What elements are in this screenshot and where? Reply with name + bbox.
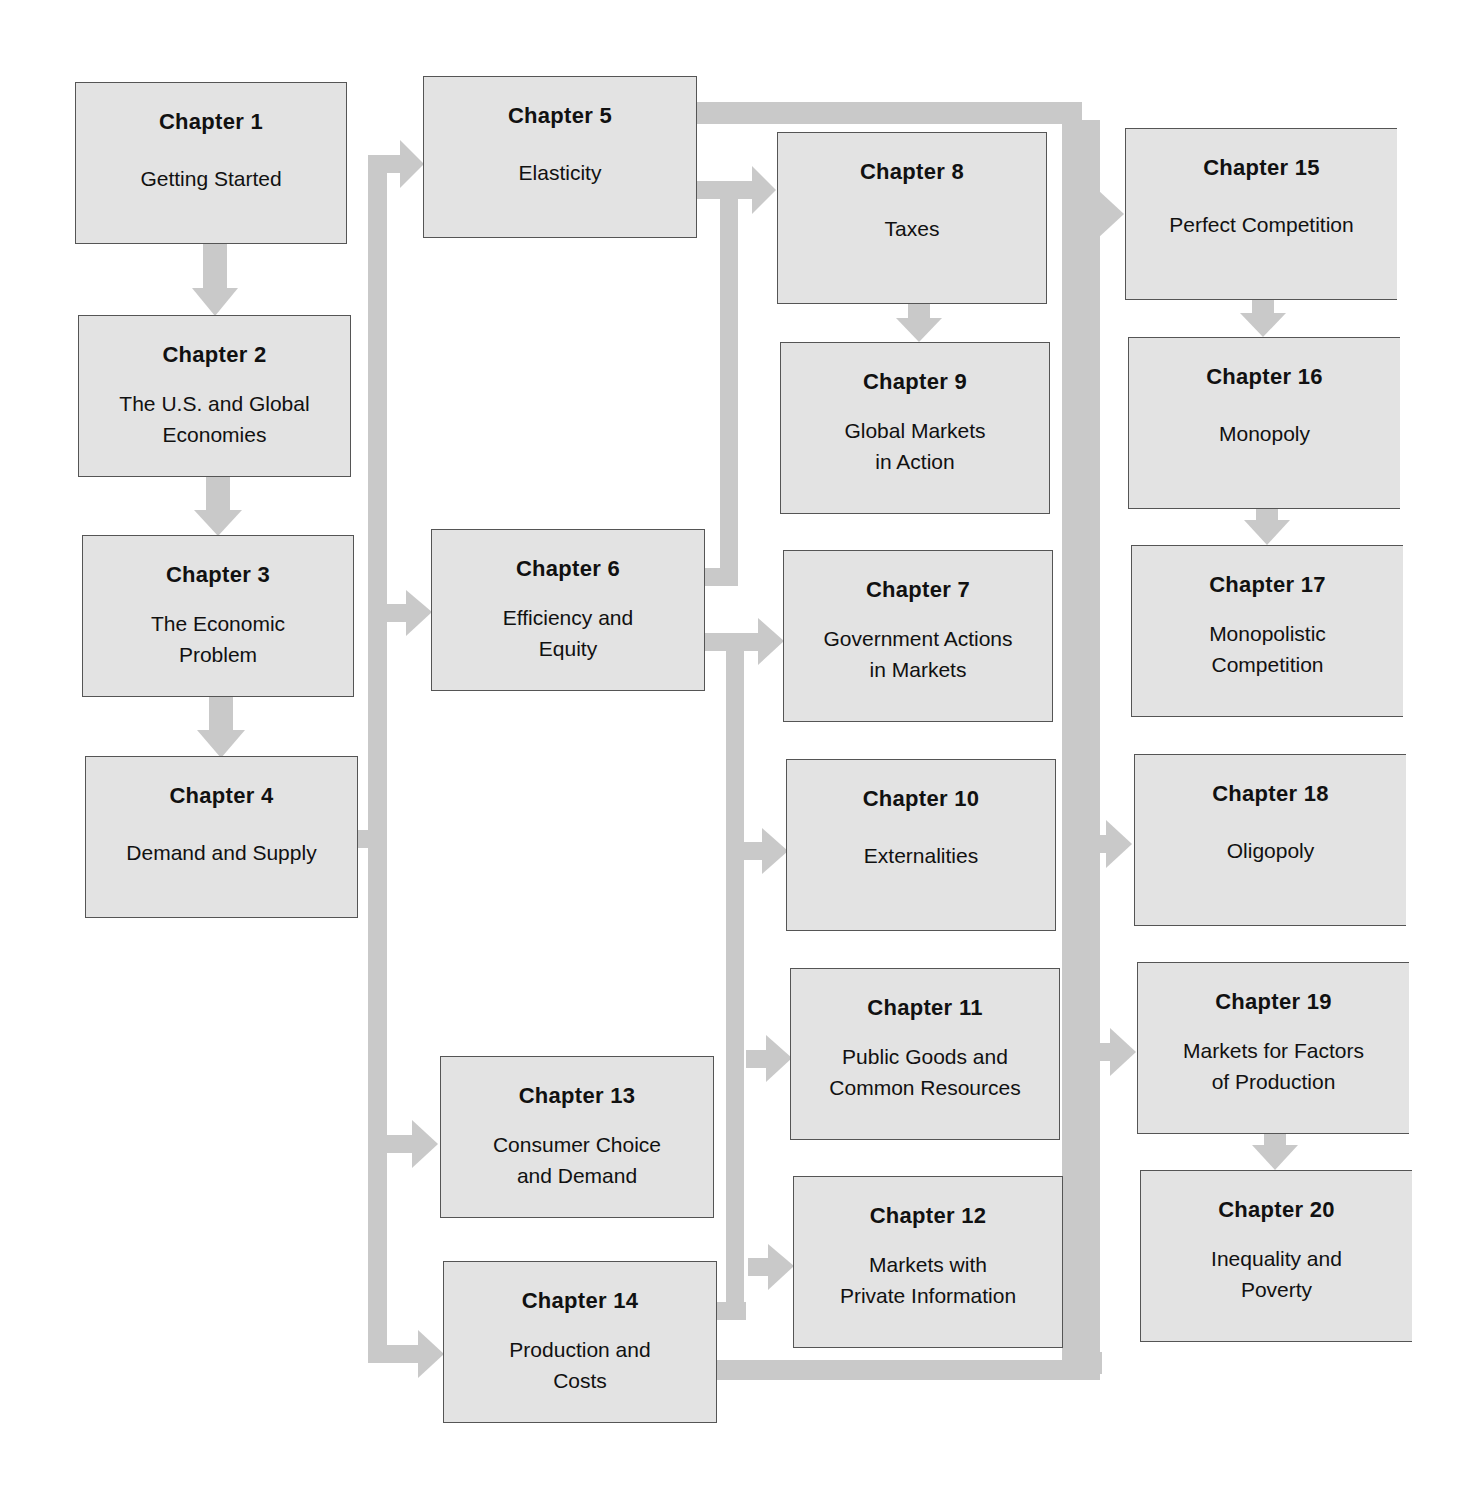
chapter-title: Efficiency and Equity: [432, 602, 704, 664]
chapter-2-box: Chapter 2 The U.S. and Global Economies: [78, 315, 351, 477]
chapter-1-box: Chapter 1 Getting Started: [75, 82, 347, 244]
chapter-9-box: Chapter 9 Global Markets in Action: [780, 342, 1050, 514]
chapter-number: Chapter 13: [441, 1083, 713, 1109]
chapter-title: Oligopoly: [1135, 835, 1406, 866]
arrow-ch19-to-ch20: [1252, 1130, 1298, 1170]
chapter-20-box: Chapter 20 Inequality and Poverty: [1140, 1170, 1412, 1342]
chapter-15-box: Chapter 15 Perfect Competition: [1125, 128, 1397, 300]
chapter-17-box: Chapter 17 Monopolistic Competition: [1131, 545, 1403, 717]
chapter-7-box: Chapter 7 Government Actions in Markets: [783, 550, 1053, 722]
chapter-number: Chapter 3: [83, 562, 353, 588]
chapter-title: Getting Started: [76, 163, 346, 194]
chapter-flow-diagram: Chapter 1 Getting Started Chapter 2 The …: [0, 0, 1476, 1492]
chapter-title: Markets with Private Information: [794, 1249, 1062, 1311]
chapter-title: Elasticity: [424, 157, 696, 188]
chapter-number: Chapter 16: [1129, 364, 1400, 390]
chapter-title: Production and Costs: [444, 1334, 716, 1396]
chapter-number: Chapter 9: [781, 369, 1049, 395]
arrow-ch1-to-ch2: [192, 243, 238, 316]
chapter-number: Chapter 5: [424, 103, 696, 129]
chapter-number: Chapter 20: [1141, 1197, 1412, 1223]
chapter-number: Chapter 19: [1138, 989, 1409, 1015]
chapter-title: Global Markets in Action: [781, 415, 1049, 477]
chapter-title: Monopolistic Competition: [1132, 618, 1403, 680]
arrow-ch15-to-ch16: [1240, 297, 1286, 337]
chapter-title: Monopoly: [1129, 418, 1400, 449]
chapter-title: Inequality and Poverty: [1141, 1243, 1412, 1305]
chapter-14-box: Chapter 14 Production and Costs: [443, 1261, 717, 1423]
chapter-title: Taxes: [778, 213, 1046, 244]
arrow-ch3-to-ch4: [197, 696, 245, 758]
chapter-11-box: Chapter 11 Public Goods and Common Resou…: [790, 968, 1060, 1140]
chapter-title: Government Actions in Markets: [784, 623, 1052, 685]
chapter-number: Chapter 4: [86, 783, 357, 809]
chapter-title: Public Goods and Common Resources: [791, 1041, 1059, 1103]
arrow-ch8-to-ch9: [896, 302, 942, 342]
chapter-16-box: Chapter 16 Monopoly: [1128, 337, 1400, 509]
chapter-number: Chapter 11: [791, 995, 1059, 1021]
chapter-title: The Economic Problem: [83, 608, 353, 670]
chapter-title: The U.S. and Global Economies: [79, 388, 350, 450]
chapter-10-box: Chapter 10 Externalities: [786, 759, 1056, 931]
chapter-6-box: Chapter 6 Efficiency and Equity: [431, 529, 705, 691]
chapter-title: Consumer Choice and Demand: [441, 1129, 713, 1191]
arrow-ch2-to-ch3: [194, 476, 242, 536]
chapter-number: Chapter 12: [794, 1203, 1062, 1229]
chapter-title: Externalities: [787, 840, 1055, 871]
chapter-18-box: Chapter 18 Oligopoly: [1134, 754, 1406, 926]
arrow-ch16-to-ch17: [1244, 506, 1290, 545]
chapter-number: Chapter 17: [1132, 572, 1403, 598]
chapter-number: Chapter 1: [76, 109, 346, 135]
chapter-3-box: Chapter 3 The Economic Problem: [82, 535, 354, 697]
trunk-from-ch4: [357, 140, 444, 1378]
chapter-13-box: Chapter 13 Consumer Choice and Demand: [440, 1056, 714, 1218]
chapter-title: Markets for Factors of Production: [1138, 1035, 1409, 1097]
chapter-number: Chapter 10: [787, 786, 1055, 812]
chapter-number: Chapter 2: [79, 342, 350, 368]
chapter-8-box: Chapter 8 Taxes: [777, 132, 1047, 304]
chapter-5-box: Chapter 5 Elasticity: [423, 76, 697, 238]
chapter-number: Chapter 7: [784, 577, 1052, 603]
chapter-19-box: Chapter 19 Markets for Factors of Produc…: [1137, 962, 1409, 1134]
chapter-4-box: Chapter 4 Demand and Supply: [85, 756, 358, 918]
chapter-title: Demand and Supply: [86, 837, 357, 868]
chapter-number: Chapter 18: [1135, 781, 1406, 807]
chapter-number: Chapter 8: [778, 159, 1046, 185]
chapter-12-box: Chapter 12 Markets with Private Informat…: [793, 1176, 1063, 1348]
chapter-number: Chapter 6: [432, 556, 704, 582]
branch-ch6-ch14: [705, 618, 794, 1320]
chapter-title: Perfect Competition: [1126, 209, 1397, 240]
chapter-number: Chapter 15: [1126, 155, 1397, 181]
chapter-number: Chapter 14: [444, 1288, 716, 1314]
arrow-ch5-ch6-to-ch8: [697, 166, 776, 586]
